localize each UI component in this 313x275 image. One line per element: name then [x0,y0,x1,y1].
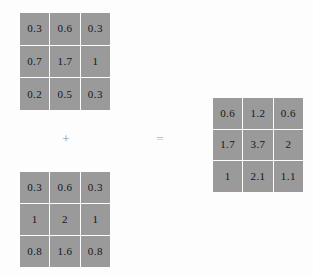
matrix-result-cell-r1c0: 1.7 [213,130,242,161]
matrix-a-cell-r1c0: 0.7 [20,46,49,78]
matrix-b-cell-r1c1: 2 [50,204,79,235]
equals-operator: = [152,132,168,145]
matrix-result-cell-r1c1: 3.7 [243,130,272,161]
matrix-b-cell-r2c0: 0.8 [20,236,49,267]
matrix-equation-canvas: 0.3 0.6 0.3 0.7 1.7 1 0.2 0.5 0.3 + = 0.… [0,0,313,275]
matrix-result-cell-r2c2: 1.1 [274,161,303,192]
matrix-a-cell-r1c2: 1 [81,46,110,78]
matrix-a-cell-r2c2: 0.3 [81,78,110,110]
matrix-result-cell-r2c0: 1 [213,161,242,192]
matrix-b-cell-r2c1: 1.6 [50,236,79,267]
matrix-a-cell-r2c0: 0.2 [20,78,49,110]
matrix-a-cell-r0c0: 0.3 [20,13,49,45]
matrix-a-cell-r0c2: 0.3 [81,13,110,45]
matrix-a-cell-r1c1: 1.7 [50,46,79,78]
plus-operator: + [58,132,74,145]
matrix-result-cell-r1c2: 2 [274,130,303,161]
matrix-b-cell-r0c1: 0.6 [50,172,79,203]
matrix-b-cell-r1c0: 1 [20,204,49,235]
matrix-b: 0.3 0.6 0.3 1 2 1 0.8 1.6 0.8 [20,172,110,267]
matrix-result-cell-r2c1: 2.1 [243,161,272,192]
matrix-b-cell-r0c2: 0.3 [81,172,110,203]
matrix-a-cell-r2c1: 0.5 [50,78,79,110]
matrix-result-cell-r0c2: 0.6 [274,98,303,129]
matrix-a-cell-r0c1: 0.6 [50,13,79,45]
matrix-result-cell-r0c1: 1.2 [243,98,272,129]
matrix-b-cell-r0c0: 0.3 [20,172,49,203]
matrix-result: 0.6 1.2 0.6 1.7 3.7 2 1 2.1 1.1 [213,98,303,192]
matrix-a: 0.3 0.6 0.3 0.7 1.7 1 0.2 0.5 0.3 [20,13,110,110]
matrix-b-cell-r1c2: 1 [81,204,110,235]
matrix-result-cell-r0c0: 0.6 [213,98,242,129]
matrix-b-cell-r2c2: 0.8 [81,236,110,267]
